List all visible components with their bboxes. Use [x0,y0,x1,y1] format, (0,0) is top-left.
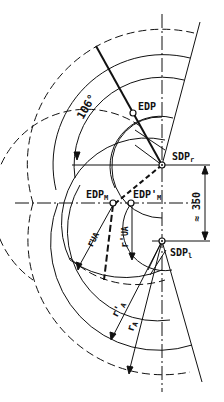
dimension-arrow-bottom [202,232,208,240]
edp-m-prime-point [128,200,134,206]
r-ua-prime-arrowhead [129,253,135,260]
edp-m-point [110,200,116,206]
label-distance-350: ≈ 350 [191,192,202,222]
label-edp: EDP [138,101,156,112]
r-ua-arrowhead [76,262,82,270]
dimension-arrow-top [202,166,208,174]
wedge-upper-edge [135,145,162,165]
r-a-prime-arrowhead [110,332,116,340]
label-edp-m-prime: EDP'M [133,189,161,202]
label-sdp-r: SDPr [172,151,194,164]
r-ua-dashed-line [104,205,113,280]
arc-upper-1 [53,55,190,190]
wedge-lower-right [162,241,202,382]
swivel-range-diagram: EDP SDPr SDPl EDPM EDP'M 106° ≈ 350 rUA … [0,0,224,402]
label-edp-m: EDPM [86,189,108,202]
arc-lower-outer-dashed [28,203,190,375]
label-sdp-l: SDPl [170,247,192,260]
wedge-upper-right [162,22,200,165]
label-r-ua: rUA [84,230,101,249]
label-r-a-prime: r'A [109,299,128,320]
wedge-upper-edge-2 [135,130,165,150]
label-r-a: rA [124,319,140,334]
label-r-ua-prime: r'UA [119,226,130,248]
r-a-arrowhead [127,366,133,374]
arc-lower-2 [67,185,170,321]
edp-point [130,110,136,116]
arc-lower-1 [51,203,192,350]
label-angle-106: 106° [74,92,99,121]
arc-lower-3 [123,205,172,271]
r-a-arrow-line [129,241,162,372]
